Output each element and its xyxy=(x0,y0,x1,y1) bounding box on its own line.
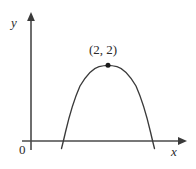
parabola-curve xyxy=(62,65,155,148)
graph-canvas xyxy=(0,0,196,169)
point-marker-icon xyxy=(106,63,111,68)
parabola-figure: y x 0 (2, 2) xyxy=(0,0,196,169)
arrow-up-icon xyxy=(27,12,35,21)
vertex-coordinate-label: (2, 2) xyxy=(89,43,117,56)
arrow-right-icon xyxy=(178,137,187,145)
y-axis-label: y xyxy=(11,16,17,29)
x-axis-label: x xyxy=(171,145,177,158)
origin-label: 0 xyxy=(19,143,26,156)
